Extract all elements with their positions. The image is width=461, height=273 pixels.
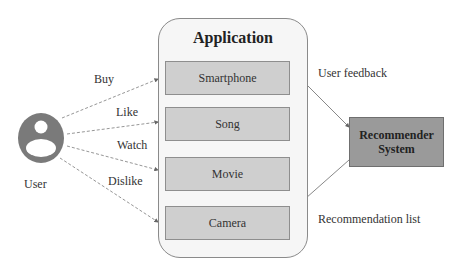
user-feedback-label: User feedback	[318, 66, 387, 81]
recommender-system-box: Recommender System	[349, 117, 444, 167]
action-label-like: Like	[116, 105, 138, 120]
item-camera: Camera	[165, 206, 290, 240]
user-label: User	[24, 177, 47, 192]
recommender-line2: System	[378, 142, 415, 156]
user-icon	[17, 112, 65, 164]
recommendation-list-label: Recommendation list	[318, 212, 420, 227]
item-smartphone: Smartphone	[165, 61, 290, 95]
action-label-watch: Watch	[117, 138, 147, 153]
application-title: Application	[159, 29, 307, 47]
action-label-dislike: Dislike	[108, 174, 143, 189]
recommender-line1: Recommender	[359, 128, 434, 142]
item-song: Song	[165, 107, 290, 141]
item-movie: Movie	[165, 157, 290, 191]
action-label-buy: Buy	[94, 72, 114, 87]
